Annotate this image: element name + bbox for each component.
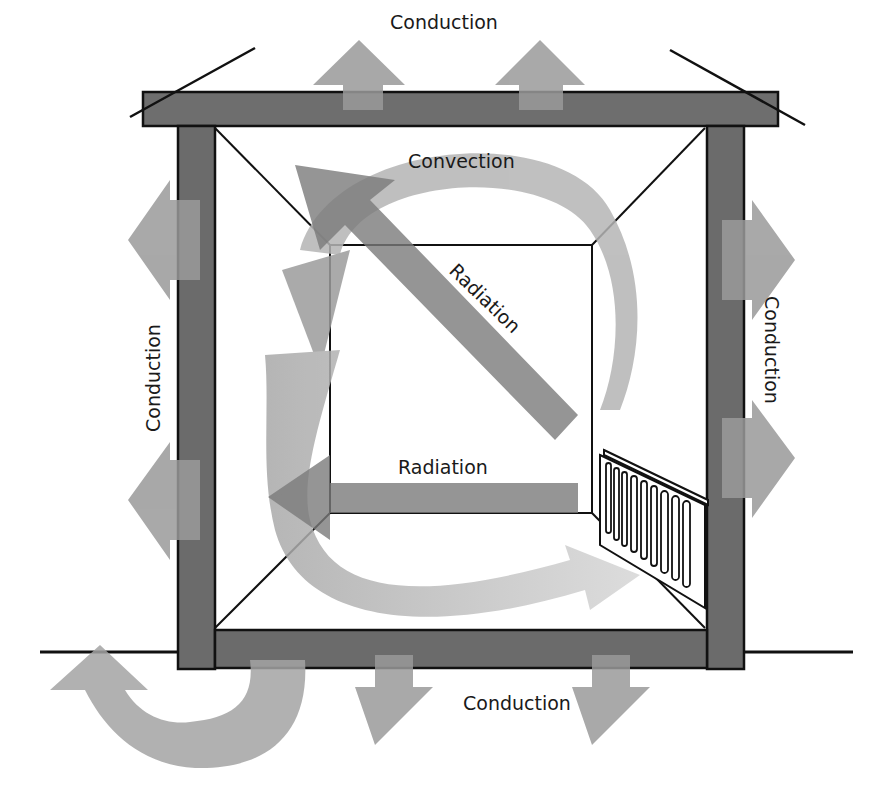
label-convection: Convection bbox=[408, 150, 515, 172]
right-wall bbox=[707, 126, 744, 669]
label-conduction-left: Conduction bbox=[142, 324, 164, 432]
heat-transfer-diagram: Conduction Convection Radiation Radiatio… bbox=[0, 0, 895, 789]
label-radiation-horizontal: Radiation bbox=[398, 456, 488, 478]
radiation-arrow-diagonal bbox=[295, 165, 578, 440]
label-conduction-top: Conduction bbox=[390, 11, 498, 33]
label-conduction-bottom: Conduction bbox=[463, 692, 571, 714]
label-conduction-right: Conduction bbox=[761, 296, 783, 404]
roof bbox=[130, 48, 805, 126]
